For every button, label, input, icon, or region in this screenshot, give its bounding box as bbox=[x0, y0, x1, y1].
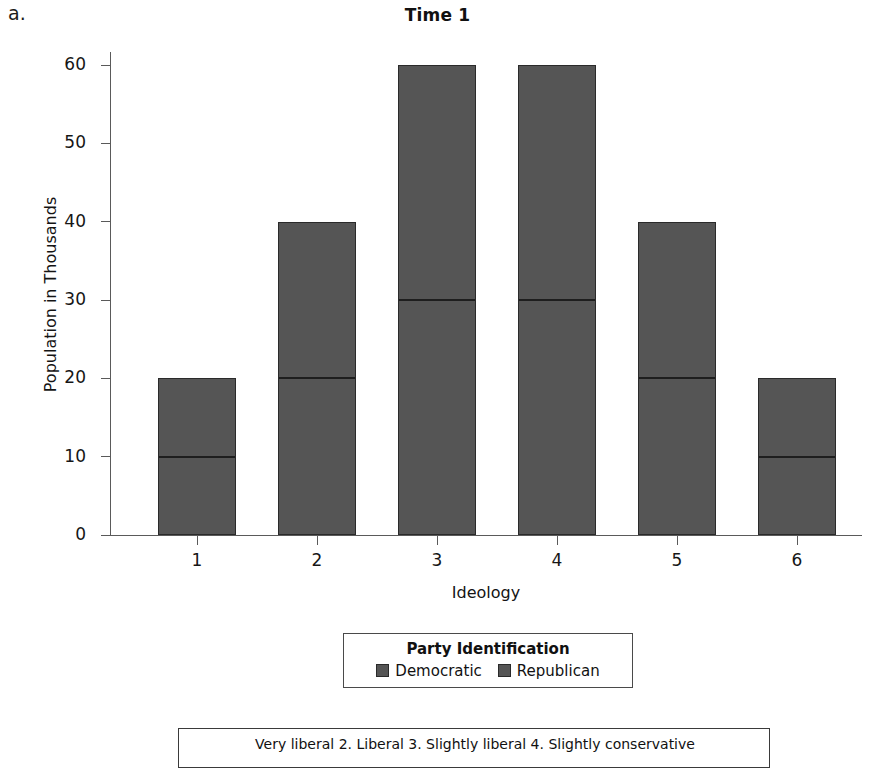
legend-title: Party Identification bbox=[352, 640, 624, 659]
bar-segment-democratic bbox=[759, 379, 835, 457]
bar-segment-democratic bbox=[399, 66, 475, 301]
chart-legend: Party Identification Democratic Republic… bbox=[343, 633, 633, 688]
bar-ideology-2 bbox=[278, 222, 356, 535]
bar-segment-democratic bbox=[639, 223, 715, 380]
legend-label: Republican bbox=[517, 662, 600, 680]
x-tick-5 bbox=[677, 536, 678, 545]
bar-segment-republican bbox=[159, 456, 235, 534]
bar-segment-republican bbox=[399, 299, 475, 534]
caption-box: Very liberal 2. Liberal 3. Slightly libe… bbox=[178, 728, 770, 768]
y-tick-50 bbox=[101, 143, 110, 144]
x-tick-label: 5 bbox=[647, 552, 707, 569]
y-axis-line bbox=[110, 52, 111, 536]
legend-item-democratic: Democratic bbox=[376, 662, 481, 680]
bar-segment-republican bbox=[639, 377, 715, 534]
bar-ideology-3 bbox=[398, 65, 476, 535]
x-tick-label: 3 bbox=[407, 552, 467, 569]
x-tick-label: 4 bbox=[527, 552, 587, 569]
bar-segment-republican bbox=[279, 377, 355, 534]
bar-segment-democratic bbox=[279, 223, 355, 380]
x-axis-title: Ideology bbox=[110, 583, 862, 602]
legend-item-republican: Republican bbox=[498, 662, 600, 680]
bar-segment-democratic bbox=[159, 379, 235, 457]
legend-swatch-icon bbox=[376, 664, 389, 677]
chart-plot-area: 0 10 20 30 40 50 60 1 2 3 4 5 6 Populati… bbox=[0, 0, 875, 620]
x-tick-2 bbox=[317, 536, 318, 545]
y-tick-60 bbox=[101, 65, 110, 66]
x-tick-4 bbox=[557, 536, 558, 545]
legend-label: Democratic bbox=[395, 662, 481, 680]
y-tick-20 bbox=[101, 378, 110, 379]
y-tick-30 bbox=[101, 300, 110, 301]
bar-ideology-5 bbox=[638, 222, 716, 535]
x-tick-6 bbox=[797, 536, 798, 545]
bar-ideology-6 bbox=[758, 378, 836, 535]
y-tick-0 bbox=[101, 535, 110, 536]
y-tick-10 bbox=[101, 456, 110, 457]
legend-items: Democratic Republican bbox=[352, 662, 624, 680]
bar-segment-republican bbox=[759, 456, 835, 534]
x-tick-label: 1 bbox=[167, 552, 227, 569]
x-tick-1 bbox=[197, 536, 198, 545]
x-axis-line bbox=[110, 535, 862, 536]
x-tick-label: 6 bbox=[767, 552, 827, 569]
legend-swatch-icon bbox=[498, 664, 511, 677]
y-tick-label: 0 bbox=[24, 526, 86, 543]
bar-segment-democratic bbox=[519, 66, 595, 301]
y-axis-title: Population in Thousands bbox=[41, 130, 60, 460]
y-tick-label: 60 bbox=[24, 56, 86, 73]
x-tick-3 bbox=[437, 536, 438, 545]
bar-ideology-4 bbox=[518, 65, 596, 535]
bar-ideology-1 bbox=[158, 378, 236, 535]
x-tick-label: 2 bbox=[287, 552, 347, 569]
y-tick-40 bbox=[101, 221, 110, 222]
caption-text: Very liberal 2. Liberal 3. Slightly libe… bbox=[189, 736, 761, 752]
bar-segment-republican bbox=[519, 299, 595, 534]
